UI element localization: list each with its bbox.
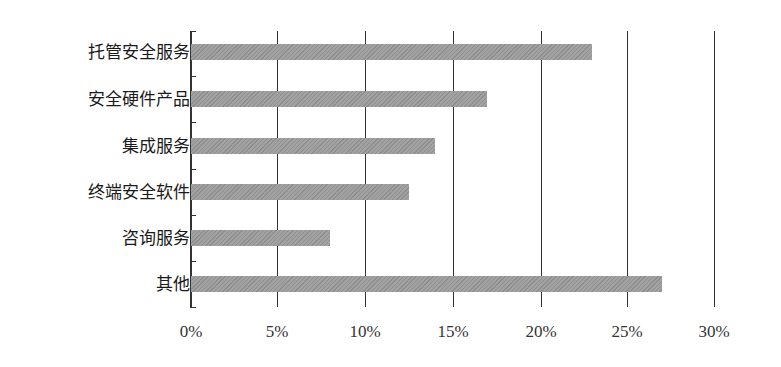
y-tick bbox=[190, 31, 196, 32]
category-label: 其他 bbox=[156, 274, 190, 294]
gridline-5 bbox=[277, 31, 278, 307]
bar-managed-security bbox=[191, 44, 592, 60]
y-tick bbox=[190, 169, 196, 170]
y-tick bbox=[190, 215, 196, 216]
category-label: 安全硬件产品 bbox=[88, 89, 190, 109]
x-tick-label: 30% bbox=[684, 322, 744, 342]
category-label: 终端安全软件 bbox=[88, 182, 190, 202]
y-tick bbox=[190, 261, 196, 262]
bar-security-hardware bbox=[191, 91, 487, 107]
category-label: 集成服务 bbox=[122, 136, 190, 156]
x-tick-label: 5% bbox=[247, 322, 307, 342]
category-label: 托管安全服务 bbox=[88, 42, 190, 62]
bar-consulting-services bbox=[191, 230, 330, 246]
x-tick-label: 10% bbox=[335, 322, 395, 342]
category-label: 咨询服务 bbox=[122, 228, 190, 248]
horizontal-bar-chart: 托管安全服务 安全硬件产品 集成服务 终端安全软件 咨询服务 其他 0% 5% … bbox=[0, 0, 781, 367]
bar-integration-services bbox=[191, 138, 435, 154]
x-tick-label: 20% bbox=[511, 322, 571, 342]
bar-endpoint-security-software bbox=[191, 184, 409, 200]
y-tick bbox=[190, 307, 196, 308]
x-tick-label: 15% bbox=[423, 322, 483, 342]
bar-other bbox=[191, 276, 662, 292]
gridline-10 bbox=[365, 31, 366, 307]
x-tick-label: 25% bbox=[597, 322, 657, 342]
x-tick-label: 0% bbox=[161, 322, 221, 342]
gridline-25 bbox=[627, 31, 628, 307]
gridline-20 bbox=[541, 31, 542, 307]
gridline-15 bbox=[453, 31, 454, 307]
y-tick bbox=[190, 122, 196, 123]
y-tick bbox=[190, 76, 196, 77]
gridline-30 bbox=[714, 31, 715, 307]
